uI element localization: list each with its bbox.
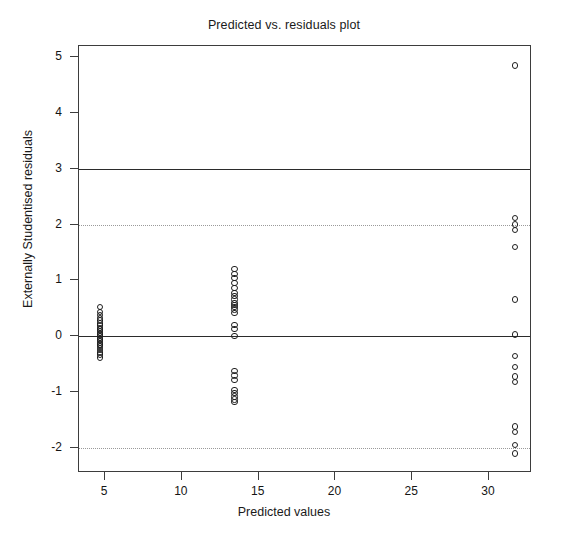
y-tick (70, 224, 78, 225)
y-tick (70, 56, 78, 57)
x-tick (181, 472, 182, 480)
x-tick (258, 472, 259, 480)
x-axis-label: Predicted values (0, 505, 568, 519)
y-tick-label: -2 (22, 440, 62, 454)
x-tick (488, 472, 489, 480)
y-tick (70, 447, 78, 448)
y-tick (70, 168, 78, 169)
scatter-plot-figure: Predicted vs. residuals plot -2-1012345 … (0, 0, 568, 533)
x-tick-label: 20 (311, 484, 357, 498)
y-axis: -2-1012345 (0, 0, 568, 533)
y-tick (70, 279, 78, 280)
y-tick (70, 112, 78, 113)
y-axis-label: Externally Studentised residuals (21, 19, 35, 419)
x-tick-label: 25 (388, 484, 434, 498)
x-tick (104, 472, 105, 480)
x-tick (411, 472, 412, 480)
y-tick (70, 391, 78, 392)
x-tick-label: 15 (235, 484, 281, 498)
x-tick-label: 5 (81, 484, 127, 498)
x-tick-label: 10 (158, 484, 204, 498)
x-tick (334, 472, 335, 480)
y-tick (70, 335, 78, 336)
x-tick-label: 30 (465, 484, 511, 498)
